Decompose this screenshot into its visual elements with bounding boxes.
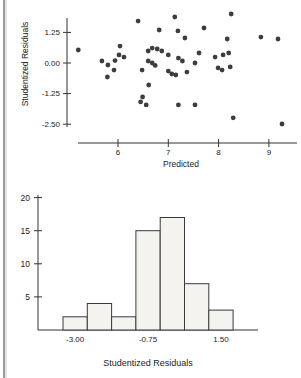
page: 1.250.00-1.25-2.506789PredictedStudentiz… xyxy=(0,0,301,378)
scatter-point xyxy=(118,44,123,49)
scatter-point xyxy=(155,47,160,52)
scatter-point xyxy=(225,37,230,42)
scatter-point xyxy=(140,95,145,100)
scatter-point xyxy=(176,29,181,34)
hist-bar xyxy=(63,317,87,330)
scatter-point xyxy=(169,72,174,77)
scatter-point xyxy=(172,15,177,20)
scatter-x-tick-label: 8 xyxy=(216,148,221,157)
hist-y-tick-label: 15 xyxy=(21,226,31,236)
scatter-y-tick-label: -2.50 xyxy=(42,120,61,129)
scatter-point xyxy=(136,19,141,24)
scatter-y-tick-label: 0.00 xyxy=(44,59,60,68)
hist-x-tick-label: -3.00 xyxy=(66,335,85,344)
hist-bar xyxy=(209,310,233,330)
histogram-figure: 5101520-3.00-0.751.50Studentized Residua… xyxy=(0,190,301,378)
hist-bar xyxy=(160,218,184,331)
scatter-point xyxy=(229,12,234,17)
scatter-point xyxy=(183,36,188,41)
scatter-point xyxy=(220,68,225,73)
scatter-point xyxy=(280,122,285,127)
histogram-canvas: 5101520-3.00-0.751.50Studentized Residua… xyxy=(0,190,301,378)
hist-y-tick-label: 5 xyxy=(25,292,30,302)
hist-x-axis-title: Studentized Residuals xyxy=(103,358,193,368)
scatter-point xyxy=(228,65,233,70)
scatter-point xyxy=(122,55,127,60)
scatter-plot-figure: 1.250.00-1.25-2.506789PredictedStudentiz… xyxy=(0,0,301,190)
scatter-point xyxy=(231,115,236,120)
scatter-point xyxy=(276,37,281,42)
scatter-point xyxy=(185,70,190,75)
hist-x-tick-label: 1.50 xyxy=(213,335,229,344)
scatter-point xyxy=(221,53,226,58)
scatter-point xyxy=(105,75,110,80)
scatter-point xyxy=(76,48,81,53)
scatter-point xyxy=(157,28,162,33)
scatter-point xyxy=(180,59,185,64)
scatter-point xyxy=(193,103,198,108)
scatter-y-tick-label: -1.25 xyxy=(42,89,61,98)
scatter-x-tick-label: 7 xyxy=(166,148,171,157)
scatter-point xyxy=(100,59,105,64)
hist-y-tick-label: 20 xyxy=(21,193,31,203)
scatter-y-axis-title: Studentized Residuals xyxy=(20,22,30,107)
scatter-point xyxy=(153,63,158,68)
scatter-point xyxy=(193,61,198,66)
scatter-point xyxy=(202,26,207,31)
scatter-point xyxy=(140,68,145,73)
hist-bar xyxy=(185,284,209,330)
scatter-point xyxy=(146,83,151,88)
scatter-point xyxy=(117,53,122,58)
scatter-point xyxy=(150,46,155,51)
scatter-x-tick-label: 6 xyxy=(116,148,121,157)
scatter-x-tick-label: 9 xyxy=(267,148,272,157)
scatter-point xyxy=(166,53,171,58)
scatter-point xyxy=(226,51,231,56)
scatter-point xyxy=(176,56,181,61)
hist-x-tick-label: -0.75 xyxy=(139,335,158,344)
scatter-point xyxy=(113,58,118,63)
scatter-plot-canvas: 1.250.00-1.25-2.506789PredictedStudentiz… xyxy=(0,0,301,190)
scatter-x-axis-title: Predicted xyxy=(163,159,199,169)
scatter-y-tick-label: 1.25 xyxy=(44,28,60,37)
scatter-point xyxy=(173,73,178,78)
scatter-point xyxy=(197,51,202,56)
scatter-point xyxy=(146,49,151,54)
scatter-point xyxy=(176,103,181,108)
scatter-point xyxy=(159,49,164,54)
hist-y-tick-label: 10 xyxy=(21,259,31,269)
scatter-point xyxy=(144,103,149,108)
hist-bar xyxy=(136,231,160,330)
scatter-point xyxy=(106,63,111,68)
scatter-point xyxy=(213,55,218,60)
hist-bar xyxy=(87,304,111,331)
scatter-point xyxy=(138,100,143,105)
hist-bar xyxy=(112,317,136,330)
scatter-point xyxy=(259,35,264,40)
scatter-point xyxy=(112,68,117,73)
